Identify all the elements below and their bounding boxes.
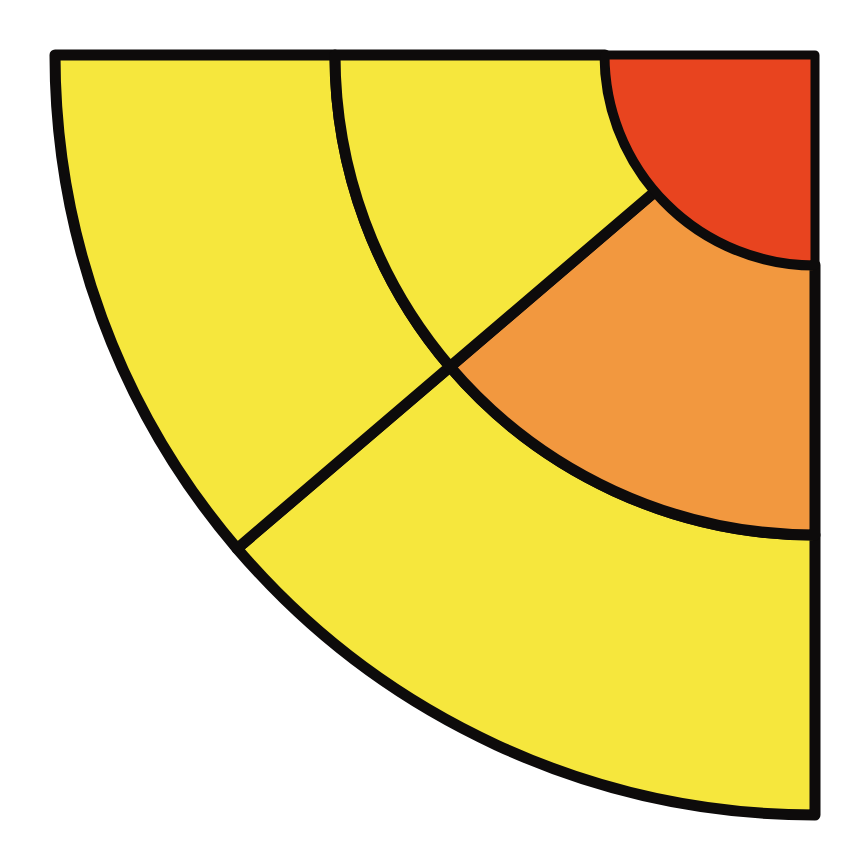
sunburst-chart-container xyxy=(0,0,861,855)
sunburst-chart xyxy=(0,0,861,855)
